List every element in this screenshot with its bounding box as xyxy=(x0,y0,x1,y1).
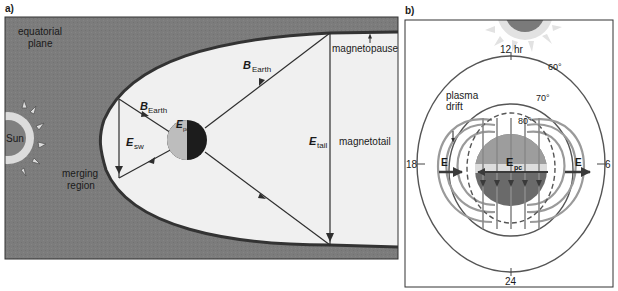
e-tail-sub: tail xyxy=(317,141,327,150)
figure: a) Sun xyxy=(0,0,618,291)
plane-label-line1: equatorial xyxy=(18,26,62,37)
b-earth-near-symbol: B xyxy=(140,100,148,112)
plasma-label-line2: drift xyxy=(446,101,463,112)
e-pc-sub-a: pc xyxy=(183,126,189,132)
b-earth-far-sub: Earth xyxy=(252,65,271,74)
panel-b: 12 hr 60° 70° 80° plasma drift E E E pc … xyxy=(405,0,613,287)
sun-label: Sun xyxy=(6,133,24,144)
e-right-label: E xyxy=(575,157,582,168)
panel-a: Sun equatorial plane merging xyxy=(0,17,400,259)
midnight-label: 24 xyxy=(505,276,517,287)
dawn-label: 6 xyxy=(605,159,611,170)
dusk-label: 18 xyxy=(406,159,418,170)
e-pc-sub-b: pc xyxy=(514,164,522,172)
e-tail-symbol: E xyxy=(309,135,317,147)
b-earth-far-symbol: B xyxy=(243,59,251,71)
e-pc-symbol-b: E xyxy=(506,156,513,168)
lat-80-label: 80° xyxy=(518,116,532,126)
b-earth-near-sub: Earth xyxy=(148,106,167,115)
e-sw-symbol: E xyxy=(126,136,134,148)
e-pc-symbol-a: E xyxy=(176,119,183,130)
e-sw-sub: sw xyxy=(134,142,144,151)
noon-label: 12 hr xyxy=(500,44,523,55)
panel-b-label: b) xyxy=(405,5,414,16)
magnetotail-label: magnetotail xyxy=(339,136,391,147)
e-left-label: E xyxy=(441,157,448,168)
lat-70-label: 70° xyxy=(536,93,550,103)
plane-label-line2: plane xyxy=(28,38,53,49)
panel-a-label: a) xyxy=(5,3,14,14)
merging-label-line1: merging xyxy=(62,168,98,179)
magnetopause-label: magnetopause xyxy=(332,43,399,54)
lat-60-label: 60° xyxy=(548,62,562,72)
plasma-label-line1: plasma xyxy=(446,90,479,101)
merging-label-line2: region xyxy=(67,180,95,191)
